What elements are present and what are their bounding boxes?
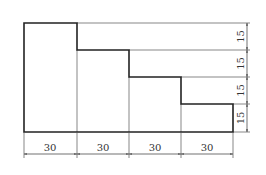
dim-label-h1: 30 [44, 142, 57, 153]
stepped-block-drawing: 30 30 30 30 15 15 15 15 [0, 0, 266, 175]
stepped-outline [24, 23, 233, 132]
dim-label-h3: 30 [149, 142, 162, 153]
dim-label-v2: 15 [235, 57, 246, 70]
dim-label-h2: 30 [97, 142, 110, 153]
dim-label-h4: 30 [201, 142, 214, 153]
dim-label-v4: 15 [235, 112, 246, 125]
dim-label-v3: 15 [235, 84, 246, 97]
dim-label-v1: 15 [235, 30, 246, 43]
